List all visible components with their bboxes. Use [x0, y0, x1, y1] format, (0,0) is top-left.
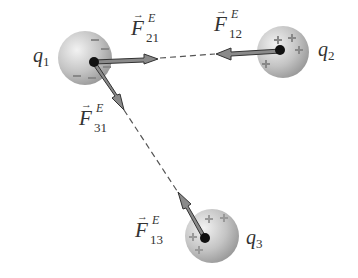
q3-center-dot [200, 233, 210, 243]
label-force-13: →FE13 [135, 220, 148, 241]
label-q2: q2 [318, 38, 335, 64]
label-force-12: →FE12 [214, 14, 227, 35]
q1-center-dot [89, 57, 99, 67]
label-q1: q1 [33, 44, 50, 70]
label-q3: q3 [246, 226, 263, 252]
label-force-21: →FE21 [131, 18, 144, 39]
dashed-line-q1-q3 [124, 110, 183, 200]
dashed-line-q1-q2 [160, 54, 215, 58]
diagram-canvas [0, 0, 358, 278]
label-force-31: →FE31 [79, 108, 92, 129]
q2-center-dot [275, 45, 285, 55]
